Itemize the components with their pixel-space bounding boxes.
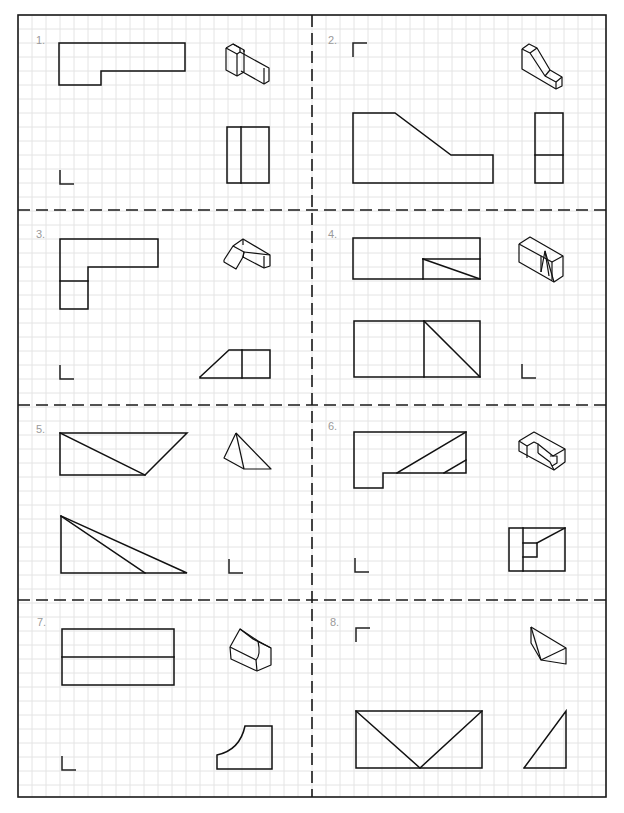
side-view-edge [217,726,272,769]
front-view-edge [356,711,482,768]
side-view-edge [61,516,187,573]
isometric-view [226,44,269,84]
answer-area-corner-marker[interactable] [60,365,74,379]
isometric-view-edge [519,432,565,470]
problem-panel-8: 8. [330,616,566,768]
isometric-view-edge [236,433,244,469]
isometric-view-edge [233,44,240,52]
front-view-edge [60,433,187,475]
problem-number: 8. [330,616,339,628]
side-view-edge [200,350,270,378]
isometric-view [224,239,270,269]
side-view [354,321,480,377]
side-view-edge [537,528,565,543]
answer-area-corner-marker[interactable] [355,558,369,572]
isometric-view-edge [224,433,271,469]
front-view [356,711,482,768]
isometric-view-edge [522,49,556,89]
isometric-view [230,629,271,671]
problem-number: 3. [36,228,45,240]
problem-panel-5: 5. [36,423,271,573]
front-view [60,239,158,309]
side-view [524,711,566,768]
problem-number: 7. [37,616,46,628]
front-view [353,238,480,279]
side-view-edge [523,543,537,557]
front-view-edge [444,460,466,473]
orthographic-worksheet: 1.2.3.4.5.6.7.8. [0,0,624,813]
answer-area-corner-marker[interactable] [522,364,536,378]
side-view-edge [535,113,563,183]
problem-panel-2: 2. [328,34,563,183]
side-view [535,113,563,183]
front-view [59,43,185,85]
problem-number: 1. [36,34,45,46]
problem-panel-7: 7. [37,616,272,770]
front-view [60,433,187,475]
problem-number: 2. [328,34,337,46]
isometric-view [519,432,565,470]
side-view-edge [354,321,480,377]
answer-area-corner-marker[interactable] [60,170,74,184]
front-view-edge [356,711,482,768]
problem-panel-4: 4. [328,228,563,378]
isometric-view-edge [541,648,566,660]
problem-panel-6: 6. [328,420,565,572]
problem-panel-3: 3. [36,228,270,379]
front-view-edge [60,239,158,309]
isometric-view-edge [538,444,565,456]
problem-number: 4. [328,228,337,240]
problem-number: 5. [36,423,45,435]
front-view-edge [353,113,493,183]
problem-number: 6. [328,420,337,432]
side-view-edge [524,711,566,768]
front-view [62,629,174,685]
side-view [200,350,270,378]
isometric-view-edge [556,77,562,82]
isometric-view [522,44,562,89]
side-view [61,516,187,573]
side-view [217,726,272,769]
isometric-view [224,433,271,469]
answer-area-corner-marker[interactable] [353,43,367,57]
front-view [353,113,493,183]
front-view-edge [59,43,185,85]
side-view [509,528,565,571]
isometric-view [519,237,563,282]
